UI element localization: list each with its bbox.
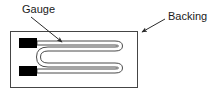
backing-leader-line [142, 19, 165, 32]
gauge-label: Gauge [22, 3, 55, 15]
diagram-canvas: Gauge Backing [0, 0, 219, 96]
backing-label: Backing [168, 10, 207, 22]
solder-pad-upper [19, 38, 37, 48]
strain-gauge-diagram: Gauge Backing [0, 0, 219, 96]
solder-pad-lower [19, 66, 37, 76]
